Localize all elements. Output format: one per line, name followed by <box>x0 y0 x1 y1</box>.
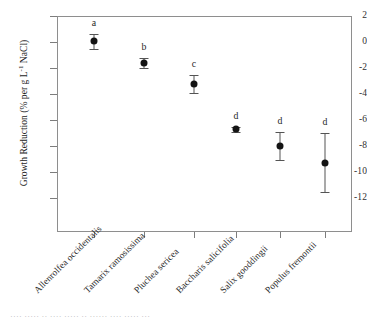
y-tick-mark <box>50 16 57 17</box>
y-axis-title-exponent: -1 <box>17 66 25 72</box>
data-point <box>322 160 329 167</box>
data-point <box>91 37 98 44</box>
significance-letter: a <box>92 18 96 28</box>
y-tick-mark <box>50 94 57 95</box>
y-axis-title-main: Growth Reduction (% per g L <box>18 71 29 186</box>
growth-reduction-figure: Growth Reduction (% per g L-1 NaCl) 20-2… <box>0 0 367 325</box>
x-tick-mark <box>194 232 195 238</box>
error-bar-cap <box>190 93 199 94</box>
x-tick-label: Populus fremontii <box>263 240 318 295</box>
error-bar-cap <box>276 132 285 133</box>
y-axis-title-tail: NaCl) <box>18 40 29 66</box>
y-tick-mark <box>50 146 57 147</box>
error-bar-cap <box>190 75 199 76</box>
x-tick-mark <box>325 232 326 238</box>
error-bar-cap <box>321 192 330 193</box>
figure-caption: ···· ····· ·· ···· ····· ·· ······ ···· … <box>10 312 360 322</box>
y-tick-mark <box>50 120 57 121</box>
error-bar-cap <box>90 34 99 35</box>
data-point <box>141 59 148 66</box>
y-tick-mark <box>50 172 57 173</box>
data-point <box>191 80 198 87</box>
x-tick-mark <box>280 232 281 238</box>
x-tick-mark <box>236 232 237 238</box>
plot-area <box>57 16 352 232</box>
y-axis-title: Growth Reduction (% per g L-1 NaCl) <box>19 13 29 213</box>
significance-letter: d <box>323 117 328 127</box>
significance-letter: d <box>278 116 283 126</box>
y-tick-mark <box>50 42 57 43</box>
error-bar-cap <box>90 49 99 50</box>
y-tick-mark <box>50 68 57 69</box>
significance-letter: b <box>142 42 147 52</box>
data-point <box>233 126 240 133</box>
error-bar-cap <box>321 133 330 134</box>
error-bar-cap <box>140 68 149 69</box>
significance-letter: d <box>234 111 239 121</box>
data-point <box>277 143 284 150</box>
error-bar-cap <box>276 160 285 161</box>
y-tick-mark <box>50 198 57 199</box>
significance-letter: c <box>192 59 196 69</box>
